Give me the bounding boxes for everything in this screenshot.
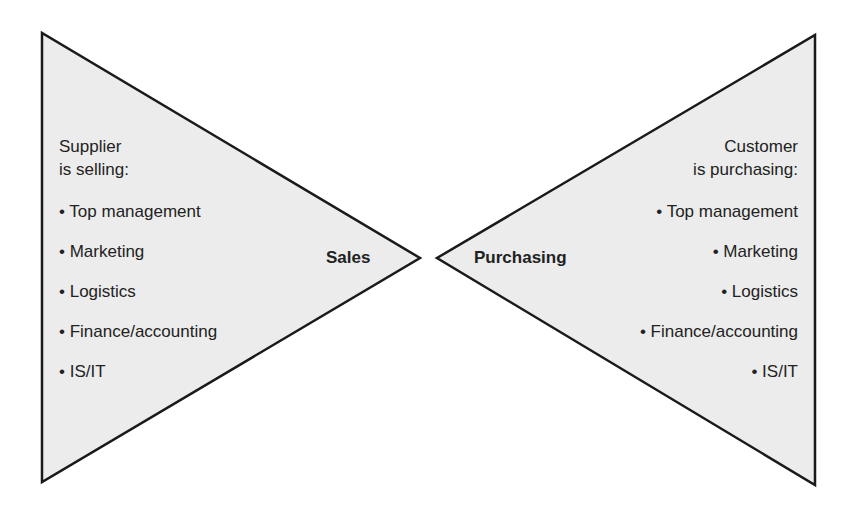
customer-heading-line2: is purchasing: xyxy=(693,160,798,180)
sales-label: Sales xyxy=(326,248,370,268)
supplier-heading-line2: is selling: xyxy=(59,160,129,180)
customer-item-top-management: • Top management xyxy=(656,202,798,222)
supplier-item-top-management: • Top management xyxy=(59,202,201,222)
purchasing-label: Purchasing xyxy=(474,248,567,268)
customer-item-marketing: • Marketing xyxy=(713,242,798,262)
supplier-item-finance: • Finance/accounting xyxy=(59,322,217,342)
supplier-item-logistics: • Logistics xyxy=(59,282,136,302)
supplier-heading-line1: Supplier xyxy=(59,137,121,157)
customer-heading-line1: Customer xyxy=(724,137,798,157)
supplier-item-is-it: • IS/IT xyxy=(59,362,106,382)
supplier-item-marketing: • Marketing xyxy=(59,242,144,262)
customer-item-is-it: • IS/IT xyxy=(751,362,798,382)
customer-item-logistics: • Logistics xyxy=(721,282,798,302)
customer-item-finance: • Finance/accounting xyxy=(640,322,798,342)
